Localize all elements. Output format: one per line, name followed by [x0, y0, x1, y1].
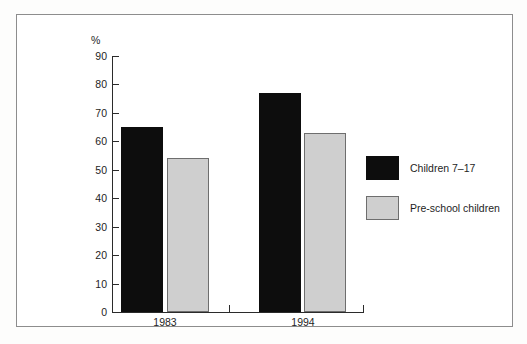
x-axis-end-tick — [363, 305, 364, 313]
y-axis-tick — [112, 84, 119, 85]
legend-item-2: Pre-school children — [366, 196, 511, 224]
y-axis-tick — [112, 312, 119, 313]
chart-legend: Children 7–17Pre-school children — [366, 156, 511, 236]
x-axis-mid-tick — [229, 305, 230, 312]
y-axis-unit-label: % — [91, 35, 100, 46]
x-axis-line — [112, 312, 364, 313]
y-axis-tick — [112, 198, 119, 199]
y-axis-tick-label: 30 — [29, 222, 107, 233]
y-axis-tick-label: 60 — [29, 136, 107, 147]
x-axis-label-1983: 1983 — [109, 317, 221, 328]
legend-swatch-light — [366, 196, 399, 220]
y-axis-tick-label: 40 — [29, 193, 107, 204]
chart-frame: % 9080706050403020100 19831994 Children … — [16, 14, 513, 327]
y-axis-tick-label: 20 — [29, 250, 107, 261]
y-axis-tick — [112, 255, 119, 256]
y-axis-tick — [112, 284, 119, 285]
y-axis-tick-label: 50 — [29, 165, 107, 176]
y-axis-tick — [112, 170, 119, 171]
y-axis-tick-label: 10 — [29, 279, 107, 290]
y-axis-tick — [112, 141, 119, 142]
page-background: % 9080706050403020100 19831994 Children … — [0, 0, 527, 344]
x-axis-label-1994: 1994 — [247, 317, 359, 328]
bar-pre-school-children-1994 — [304, 133, 346, 312]
y-axis-tick — [112, 227, 119, 228]
legend-label: Children 7–17 — [410, 163, 475, 174]
y-axis-tick — [112, 113, 119, 114]
bar-pre-school-children-1983 — [167, 158, 209, 312]
y-axis-tick-label: 0 — [29, 307, 107, 318]
y-axis-tick-label: 80 — [29, 79, 107, 90]
legend-label: Pre-school children — [410, 203, 500, 214]
y-axis-tick-label: 90 — [29, 51, 107, 62]
y-axis-tick-label: 70 — [29, 108, 107, 119]
legend-swatch-dark — [366, 156, 399, 180]
bar-children-7-17-1983 — [121, 127, 163, 312]
legend-item-1: Children 7–17 — [366, 156, 511, 184]
y-axis-tick — [112, 56, 119, 57]
bar-children-7-17-1994 — [259, 93, 301, 312]
bar-chart: % 9080706050403020100 19831994 Children … — [17, 15, 514, 328]
y-axis-line — [112, 56, 113, 313]
